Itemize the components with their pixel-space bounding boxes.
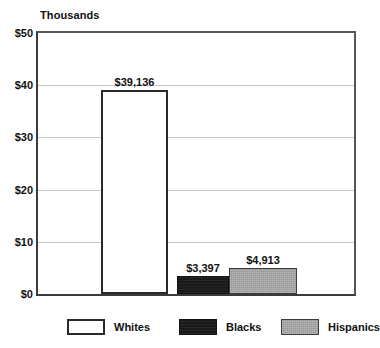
y-axis-tick-labels: $0$10$20$30$40$50	[0, 31, 33, 296]
bar-value-label-whites: $39,136	[115, 76, 155, 88]
legend-swatch-blacks	[179, 319, 217, 335]
bar-whites	[101, 90, 168, 294]
bar-group: $39,136$3,397$4,913	[38, 33, 354, 294]
bar-hispanics	[229, 268, 297, 294]
y-axis-tick-label: $40	[0, 79, 33, 91]
legend-swatch-whites	[67, 319, 105, 335]
legend-label-whites: Whites	[114, 321, 150, 333]
plot-area: $39,136$3,397$4,913	[36, 31, 356, 296]
y-axis-tick-label: $10	[0, 236, 33, 248]
legend-item-whites[interactable]: Whites	[67, 316, 150, 338]
y-axis-units-note: Thousands	[40, 9, 100, 21]
y-axis-tick-label: $0	[0, 288, 33, 300]
chart-legend: WhitesBlacksHispanics	[0, 316, 370, 340]
y-axis-tick-label: $30	[0, 131, 33, 143]
legend-item-hispanics[interactable]: Hispanics	[281, 316, 380, 338]
bar-value-label-hispanics: $4,913	[246, 254, 280, 266]
legend-item-blacks[interactable]: Blacks	[179, 316, 261, 338]
y-axis-tick-label: $20	[0, 184, 33, 196]
legend-label-hispanics: Hispanics	[328, 321, 380, 333]
bar-value-label-blacks: $3,397	[186, 262, 220, 274]
legend-swatch-hispanics	[281, 319, 319, 335]
y-axis-tick-label: $50	[0, 27, 33, 39]
legend-label-blacks: Blacks	[226, 321, 261, 333]
bar-blacks	[177, 276, 229, 294]
